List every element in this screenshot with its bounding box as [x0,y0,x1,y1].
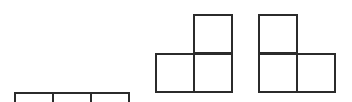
square-cell [296,53,336,93]
square-cell [258,53,298,93]
square-cell [258,14,298,54]
square-cell [14,92,54,102]
square-cell [90,92,130,102]
diagram-canvas [0,0,352,102]
square-cell [155,53,195,93]
square-cell [193,14,233,54]
square-cell [52,92,92,102]
square-cell [193,53,233,93]
